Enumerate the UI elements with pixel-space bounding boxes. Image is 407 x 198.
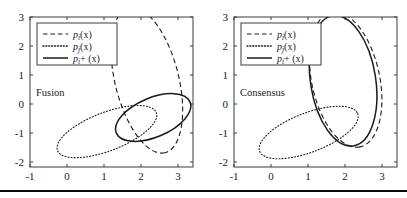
- y-tick-label: 0: [223, 98, 229, 110]
- y-tick-label: 0: [19, 98, 25, 110]
- plot-svg-fusion: 3 2 1 0 -1 -2 -1 0 1 2 3: [0, 0, 203, 190]
- y-tick-label: -1: [15, 127, 24, 139]
- curve-p-j-dotted: [253, 95, 365, 169]
- x-tick-label: 2: [342, 170, 348, 182]
- x-tick-label: 2: [138, 170, 144, 182]
- y-tick-label: 1: [19, 69, 25, 81]
- y-tick-label: 2: [223, 40, 229, 52]
- x-tick-label: 0: [268, 170, 274, 182]
- panel-annotation-fusion: Fusion: [36, 87, 65, 98]
- x-tick-label: 3: [379, 170, 385, 182]
- y-tick-label: 3: [223, 11, 229, 23]
- x-tick-label: 3: [175, 170, 181, 182]
- x-tick-label: 0: [64, 170, 70, 182]
- x-tick-label: -1: [229, 170, 238, 182]
- x-tick-label: 1: [305, 170, 311, 182]
- panel-annotation-consensus: Consensus: [240, 87, 285, 98]
- y-tick-label: 2: [19, 40, 25, 52]
- y-tick-label: -1: [219, 127, 228, 139]
- x-tick-label: 1: [101, 170, 107, 182]
- y-tick-label: -2: [15, 156, 24, 168]
- curve-p-i-plus-solid: [109, 84, 198, 151]
- y-tick-label: 1: [223, 69, 229, 81]
- panel-consensus: 3 2 1 0 -1 -2 -1 0 1 2 3: [204, 0, 407, 190]
- bottom-rule: [0, 190, 407, 192]
- curve-p-j-dotted: [51, 95, 164, 169]
- panel-fusion: 3 2 1 0 -1 -2 -1 0 1 2 3: [0, 0, 203, 190]
- y-tick-label: -2: [219, 156, 228, 168]
- y-tick-label: 3: [19, 11, 25, 23]
- figure-container: 3 2 1 0 -1 -2 -1 0 1 2 3: [0, 0, 407, 198]
- legend-consensus: pi(x) pj(x) pi+ (x): [241, 23, 321, 66]
- plot-svg-consensus: 3 2 1 0 -1 -2 -1 0 1 2 3: [204, 0, 407, 190]
- x-tick-label: -1: [25, 170, 34, 182]
- legend-fusion: pi(x) pj(x) pi+ (x): [37, 23, 117, 66]
